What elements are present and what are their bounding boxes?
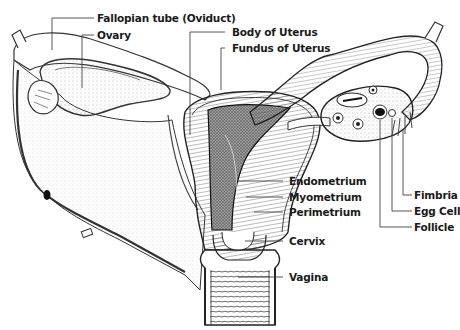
label-ovary: Ovary: [97, 30, 131, 41]
label-cervix: Cervix: [289, 236, 325, 247]
label-perimetrium: Perimetrium: [289, 207, 361, 218]
label-egg-cell: Egg Cell: [414, 206, 460, 217]
label-fallopian-tube: Fallopian tube (Oviduct): [97, 13, 236, 24]
label-fundus-of-uterus: Fundus of Uterus: [232, 43, 330, 54]
label-vagina: Vagina: [289, 272, 328, 283]
label-myometrium: Myometrium: [289, 192, 362, 203]
label-body-of-uterus: Body of Uterus: [232, 27, 317, 38]
right-ovary: [321, 86, 413, 141]
label-endometrium: Endometrium: [289, 176, 366, 187]
label-follicle: Follicle: [414, 222, 454, 233]
label-fimbria: Fimbria: [414, 190, 458, 201]
